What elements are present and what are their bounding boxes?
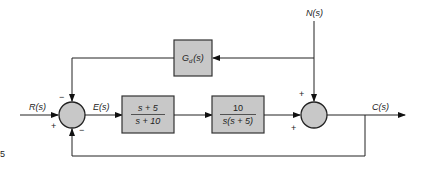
summing-junction-2: + +	[291, 89, 327, 133]
gd-to-sum1-wire	[72, 58, 174, 101]
input-signal: R(s)	[20, 102, 58, 115]
output-label: C(s)	[372, 102, 389, 112]
sum2-sign-top: +	[299, 89, 304, 99]
gd-block: Gd(s)	[174, 40, 212, 76]
sum2-sign-left: +	[291, 123, 296, 133]
output-signal: C(s)	[327, 102, 405, 115]
gd-label-arg: (s)	[193, 53, 204, 63]
controller-block: s + 5 s + 10	[122, 96, 174, 133]
sum1-sign-top: −	[59, 92, 64, 102]
sum1-sign-left: +	[51, 121, 56, 131]
controller-numerator: s + 5	[138, 103, 159, 113]
summing-junction-2-circle	[301, 102, 327, 128]
disturbance-signal: N(s)	[306, 8, 323, 101]
sum1-sign-bottom: −	[79, 125, 84, 135]
svg-text:Gd(s): Gd(s)	[182, 53, 204, 64]
disturbance-label: N(s)	[306, 8, 323, 18]
plant-denominator: s(s + 5)	[223, 116, 253, 126]
input-label: R(s)	[29, 102, 46, 112]
error-signal: E(s)	[85, 102, 122, 115]
controller-denominator: s + 10	[136, 116, 161, 126]
margin-marker: 5	[0, 149, 5, 159]
plant-numerator: 10	[233, 103, 243, 113]
error-label: E(s)	[93, 102, 110, 112]
block-diagram: N(s) Gd(s) R(s) − + − E(s) s + 5 s + 10	[0, 0, 422, 170]
summing-junction-1: − + −	[51, 92, 85, 135]
plant-block: 10 s(s + 5)	[212, 96, 264, 133]
gd-label-main: G	[182, 53, 189, 63]
